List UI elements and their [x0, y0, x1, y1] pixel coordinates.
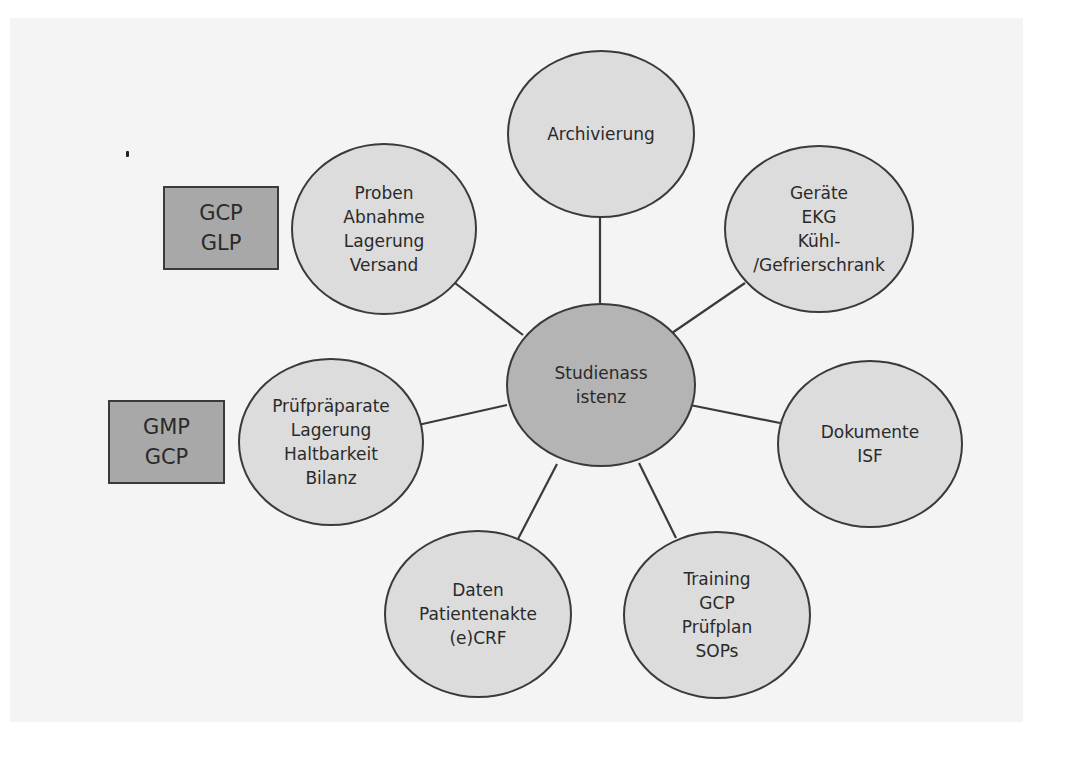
node-label: Proben: [355, 181, 414, 205]
edge-geraete: [672, 283, 745, 333]
node-training: Training GCP Prüfplan SOPs: [623, 531, 811, 699]
node-label: Dokumente: [821, 420, 920, 444]
node-label: /Gefrierschrank: [753, 253, 885, 277]
node-label: GCP: [699, 591, 734, 615]
node-label: Prüfpräparate: [272, 394, 390, 418]
node-label: istenz: [576, 385, 626, 409]
node-label: (e)CRF: [449, 626, 506, 650]
annotation-line: GLP: [201, 228, 242, 258]
annotation-gmp-gcp: GMP GCP: [108, 400, 225, 484]
edge-dokumente: [690, 405, 780, 423]
node-label: Prüfplan: [682, 615, 752, 639]
edge-daten: [518, 464, 557, 539]
node-label: Abnahme: [343, 205, 424, 229]
node-label: Training: [683, 567, 750, 591]
annotation-line: GMP: [143, 412, 190, 442]
node-label: ISF: [857, 444, 883, 468]
node-label: Lagerung: [344, 229, 424, 253]
node-label: Haltbarkeit: [284, 442, 378, 466]
node-dokumente: Dokumente ISF: [777, 360, 963, 528]
edge-pruefpraeparate: [418, 405, 507, 425]
node-label: SOPs: [696, 639, 739, 663]
annotation-line: GCP: [199, 198, 243, 228]
node-label: Studienass: [554, 361, 647, 385]
node-proben: Proben Abnahme Lagerung Versand: [291, 143, 477, 315]
node-label: Bilanz: [305, 466, 356, 490]
annotation-gcp-glp: GCP GLP: [163, 186, 279, 270]
node-pruefpraeparate: Prüfpräparate Lagerung Haltbarkeit Bilan…: [238, 358, 424, 526]
node-label: Daten: [452, 578, 503, 602]
edge-proben: [455, 283, 523, 335]
node-label: EKG: [801, 205, 836, 229]
node-label: Versand: [350, 253, 419, 277]
node-label: Kühl-: [798, 229, 841, 253]
node-label: Patientenakte: [419, 602, 537, 626]
node-label: Lagerung: [291, 418, 371, 442]
node-daten: Daten Patientenakte (e)CRF: [384, 530, 572, 698]
node-label: Geräte: [790, 181, 848, 205]
node-studienassistenz: Studienass istenz: [506, 303, 696, 467]
node-archivierung: Archivierung: [507, 50, 695, 218]
ink-mark: [126, 151, 129, 157]
annotation-line: GCP: [145, 442, 189, 472]
edge-training: [639, 463, 676, 538]
node-geraete: Geräte EKG Kühl- /Gefrierschrank: [724, 145, 914, 313]
node-label: Archivierung: [547, 122, 655, 146]
